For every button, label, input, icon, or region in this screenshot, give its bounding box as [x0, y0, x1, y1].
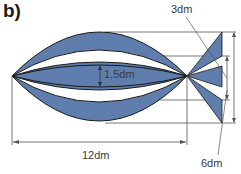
fish-diagram: [0, 0, 241, 174]
length-label: 12dm: [82, 149, 110, 161]
fish-body: [12, 32, 187, 121]
tail-outer-dimension-arrow: [232, 32, 236, 123]
length-dimension-arrow: [13, 140, 186, 144]
gap-label: 1,5dm: [104, 68, 135, 80]
tail-outer-label: 6dm: [201, 157, 222, 169]
tail-inner-label: 3dm: [171, 3, 192, 15]
fish-tail: [187, 32, 222, 123]
